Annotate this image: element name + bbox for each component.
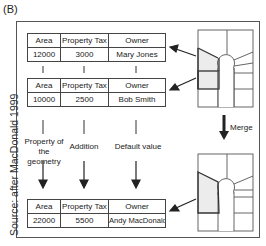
merge-arrow-icon	[219, 115, 229, 140]
parcel-map-before	[198, 30, 253, 107]
map-to-table-arrows	[170, 45, 196, 211]
connector-ticks	[43, 66, 136, 73]
diagram-graphics	[0, 0, 266, 246]
connector-lines	[43, 120, 136, 134]
down-arrows	[39, 161, 140, 188]
parcel-map-after	[198, 154, 253, 231]
